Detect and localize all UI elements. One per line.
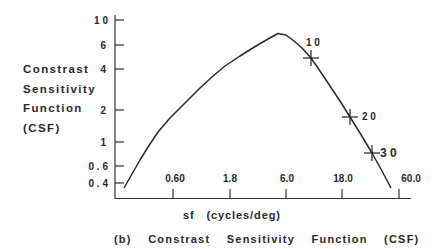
x-tick-18.0: 18.0 [333, 173, 353, 184]
marker-20-label: 2 0 [362, 111, 376, 122]
y-tick-10: 1 0 [94, 15, 108, 26]
y-tick-0.4: 0 . 4 [89, 178, 109, 189]
x-tick-1.8: 1.8 [223, 173, 237, 184]
x-ticks [173, 189, 399, 198]
marker-30-label: 3 0 [380, 146, 397, 160]
marker-labels: 1 0 2 0 3 0 [306, 37, 397, 160]
cross-markers [303, 50, 380, 161]
marker-30-cross-icon [364, 145, 380, 161]
x-axis-label: sf (cycles/deg) [183, 209, 281, 221]
marker-10-label: 1 0 [306, 37, 320, 48]
csf-curve [124, 34, 391, 189]
figure-caption: (b) Constrast Sensitivity Function (CSF) [114, 233, 419, 245]
marker-20-cross-icon [342, 109, 358, 125]
x-tick-60.0: 60.0 [401, 173, 421, 184]
y-ticks [115, 20, 124, 183]
y-tick-6: 6 [100, 40, 106, 51]
y-tick-1: 1 [100, 137, 106, 148]
x-tick-6.0: 6.0 [280, 173, 294, 184]
x-tick-labels: 0.60 1.8 6.0 18.0 60.0 [165, 173, 421, 184]
y-tick-2: 2 [100, 105, 106, 116]
y-tick-0.6: 0 . 6 [89, 161, 109, 172]
y-tick-labels: 1 0 6 4 2 1 0 . 6 0 . 4 [89, 15, 109, 189]
x-tick-0.60: 0.60 [165, 173, 185, 184]
y-tick-4: 4 [100, 64, 106, 75]
